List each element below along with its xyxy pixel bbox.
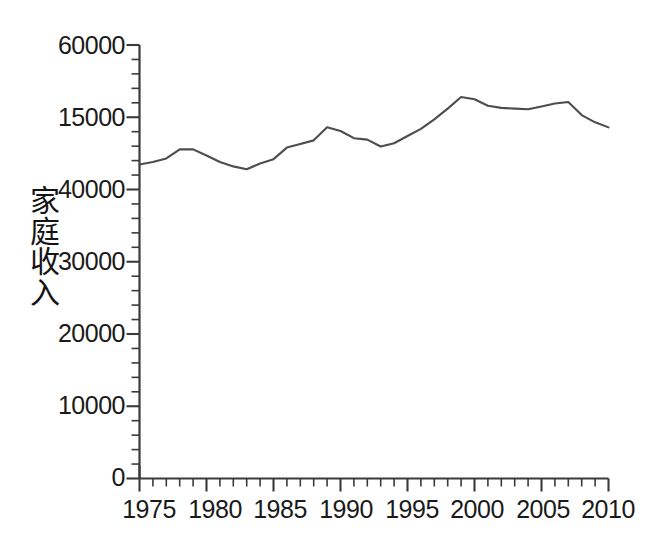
axis-spines <box>139 45 609 479</box>
y-axis-ticks <box>127 45 140 479</box>
plot-area <box>0 0 669 550</box>
chart-figure: 家 庭 收 入 60000 15000 40000 30000 20000 10… <box>0 0 669 550</box>
data-series-line <box>140 97 609 169</box>
